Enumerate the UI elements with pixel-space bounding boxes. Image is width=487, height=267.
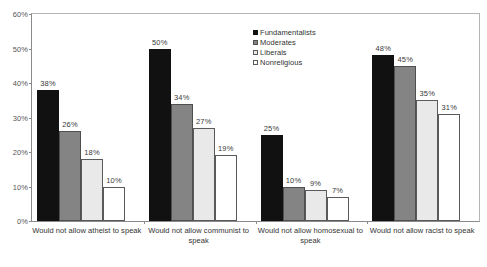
bar (149, 49, 171, 222)
bar (37, 90, 59, 221)
y-axis-tick-label: 30% (13, 113, 28, 122)
y-axis-tick-label: 0% (17, 217, 28, 226)
legend-item[interactable]: Moderates (253, 38, 316, 48)
x-axis-category-label: Would not allow homosexual to speak (255, 226, 367, 246)
bar-group: 48%45%35%31% (367, 14, 479, 221)
legend-item-label: Moderates (260, 38, 296, 47)
bar-value-label: 31% (434, 103, 464, 112)
x-axis-group-tick (256, 221, 257, 224)
legend-swatch-icon (253, 30, 258, 35)
bar (438, 114, 460, 221)
bar (283, 187, 305, 222)
legend-item[interactable]: Nonreligious (253, 58, 316, 68)
bar-value-label: 26% (55, 120, 85, 129)
x-axis-category-label: Would not allow communist to speak (143, 226, 255, 246)
bar (59, 131, 81, 221)
y-axis-tick-label: 50% (13, 44, 28, 53)
bar-value-label: 50% (145, 38, 175, 47)
bar-value-label: 38% (33, 79, 63, 88)
y-axis-tick-mark (29, 221, 32, 222)
legend-item-label: Nonreligious (260, 58, 302, 67)
bar-group: 38%26%18%10% (32, 14, 144, 221)
bar (416, 100, 438, 221)
y-axis-tick-label: 10% (13, 182, 28, 191)
y-axis-tick-label: 20% (13, 148, 28, 157)
x-axis-group-tick (367, 221, 368, 224)
bar-value-label: 18% (77, 148, 107, 157)
bar-group: 50%34%27%19% (144, 14, 256, 221)
y-axis-tick-label: 60% (13, 10, 28, 19)
bar (103, 187, 125, 222)
bar-value-label: 35% (412, 89, 442, 98)
legend-swatch-icon (253, 50, 258, 55)
legend-item-label: Liberals (260, 48, 287, 57)
bar (215, 155, 237, 221)
bar-value-label: 48% (368, 44, 398, 53)
bar (81, 159, 103, 221)
bar-value-label: 34% (167, 93, 197, 102)
legend-item-label: Fundamentalists (260, 28, 316, 37)
y-axis-tick-label: 40% (13, 79, 28, 88)
bar-value-label: 19% (211, 144, 241, 153)
bar (193, 128, 215, 221)
x-axis-group-tick (144, 221, 145, 224)
bar-chart: 0%10%20%30%40%50%60% 38%26%18%10%50%34%2… (0, 0, 487, 267)
x-axis-category-label: Would not allow racist to speak (366, 226, 478, 236)
legend-swatch-icon (253, 60, 258, 65)
x-axis-category-label: Would not allow atheist to speak (31, 226, 143, 236)
bar-value-label: 10% (99, 176, 129, 185)
chart-legend: FundamentalistsModeratesLiberalsNonrelig… (253, 28, 316, 68)
legend-item[interactable]: Fundamentalists (253, 28, 316, 38)
bar (327, 197, 349, 221)
legend-item[interactable]: Liberals (253, 48, 316, 58)
bar (372, 55, 394, 221)
bar-value-label: 45% (390, 55, 420, 64)
bar-value-label: 25% (257, 124, 287, 133)
bar-value-label: 7% (323, 186, 353, 195)
bar-value-label: 27% (189, 117, 219, 126)
legend-swatch-icon (253, 40, 258, 45)
